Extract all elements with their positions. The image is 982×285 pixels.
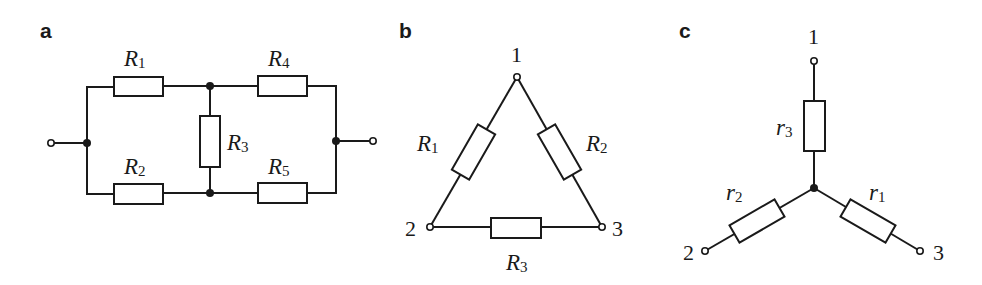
panel-c-label: c bbox=[679, 19, 691, 42]
label-c-r3: r3 bbox=[776, 115, 792, 140]
resistor-c-r3 bbox=[804, 101, 825, 151]
junction-c-center bbox=[810, 184, 818, 192]
label-c-r1: r1 bbox=[869, 180, 885, 205]
label-a-r2: R2 bbox=[123, 154, 146, 179]
resistor-c-r2 bbox=[729, 199, 784, 242]
junction-a-top bbox=[206, 82, 214, 90]
label-a-r3: R3 bbox=[226, 130, 249, 155]
node-b-1-label: 1 bbox=[511, 42, 522, 67]
resistor-a-r4 bbox=[258, 76, 307, 96]
node-b-3-label: 3 bbox=[612, 216, 623, 241]
junction-a-bottom bbox=[206, 189, 214, 197]
label-a-r5: R5 bbox=[267, 154, 290, 179]
resistor-a-r5 bbox=[258, 183, 307, 203]
resistor-a-r1 bbox=[114, 77, 163, 96]
panel-c: c 1 2 3 r3 r2 r1 bbox=[679, 19, 944, 265]
resistor-b-r2 bbox=[538, 124, 581, 179]
junction-a-left bbox=[83, 139, 91, 147]
label-c-r2: r2 bbox=[726, 180, 742, 205]
resistor-b-r1 bbox=[452, 124, 495, 179]
label-b-r1: R1 bbox=[416, 131, 439, 156]
left-rail-wire bbox=[87, 87, 114, 194]
label-a-r4: R4 bbox=[267, 46, 290, 71]
label-b-r2: R2 bbox=[585, 131, 608, 156]
node-b-1 bbox=[514, 74, 520, 80]
panel-a: a R1 R2 R3 R4 R5 bbox=[40, 19, 376, 204]
panel-b: b 1 2 3 R1 R2 R3 bbox=[399, 19, 623, 275]
resistor-c-r1 bbox=[840, 199, 895, 242]
resistor-a-r2 bbox=[114, 184, 163, 204]
resistor-b-r3 bbox=[491, 218, 541, 238]
node-b-3 bbox=[599, 224, 605, 230]
node-b-2 bbox=[427, 224, 433, 230]
label-b-r3: R3 bbox=[505, 250, 528, 275]
terminal-a-output bbox=[370, 138, 376, 144]
circuit-diagrams: a R1 R2 R3 R4 R5 b bbox=[0, 0, 982, 285]
node-c-3-label: 3 bbox=[933, 240, 944, 265]
node-b-2-label: 2 bbox=[405, 216, 416, 241]
right-rail-wire bbox=[307, 86, 336, 193]
node-c-1-label: 1 bbox=[808, 24, 819, 49]
node-c-3 bbox=[917, 248, 923, 254]
panel-a-label: a bbox=[40, 19, 52, 42]
resistor-a-r3 bbox=[200, 116, 220, 167]
node-c-2 bbox=[702, 248, 708, 254]
panel-b-label: b bbox=[399, 19, 412, 42]
node-c-2-label: 2 bbox=[683, 240, 694, 265]
terminal-a-input bbox=[48, 140, 54, 146]
node-c-1 bbox=[811, 58, 817, 64]
label-a-r1: R1 bbox=[123, 46, 146, 71]
junction-a-right bbox=[332, 137, 340, 145]
